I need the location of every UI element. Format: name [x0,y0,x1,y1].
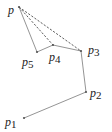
vertex-labels: pp1p2p3p4p5 [4,3,102,130]
polygon-diagram: pp1p2p3p4p5 [0,0,112,132]
label-p2: p2 [89,86,102,101]
dashed-edge-p-p4 [19,7,53,45]
dashed-edge-p-p3 [19,7,81,51]
label-p4: p4 [48,50,61,65]
vertex-p1 [23,117,25,119]
label-p: p [7,3,14,17]
dashed-edges [19,7,81,51]
vertex-p2 [85,91,87,93]
edge-p2-p3 [81,51,86,92]
label-p1: p1 [4,115,17,130]
vertex-p5 [36,51,38,53]
edge-p1-p2 [24,92,86,118]
vertex-p [18,6,20,8]
edge-p3-p4 [53,45,81,51]
edge-p5-p [19,7,37,52]
vertex-p3 [80,50,82,52]
label-p3: p3 [87,43,100,58]
label-p5: p5 [21,55,34,70]
vertex-p4 [52,44,54,46]
